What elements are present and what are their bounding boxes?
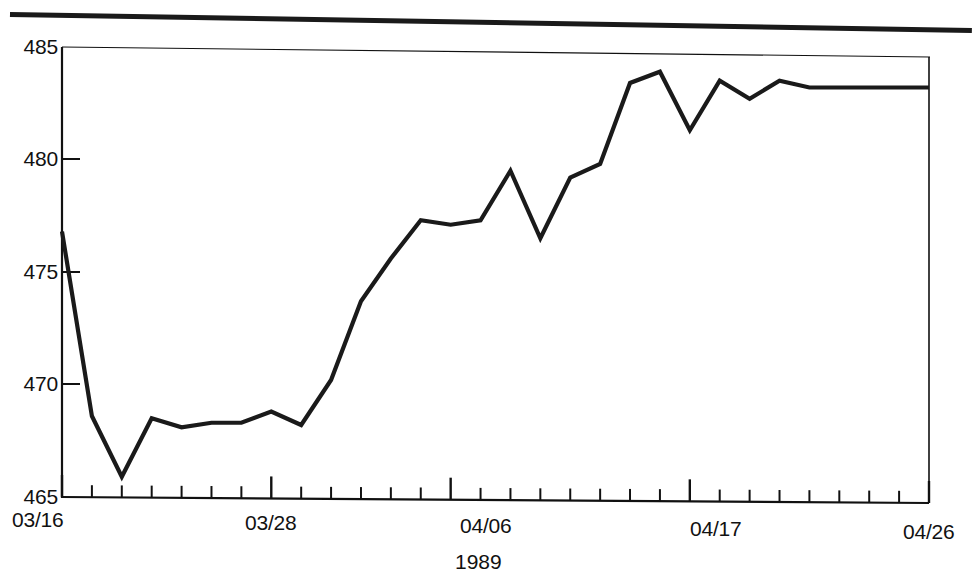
x-axis-title: 1989 [455,551,502,572]
x-tick-label-0406: 04/06 [460,515,512,536]
x-tick-label-0316: 03/16 [12,509,64,530]
plot-frame [62,47,930,503]
chart-page: 485 480 475 470 465 03/16 03/28 04/06 04… [0,0,973,585]
y-tick-label-465: 465 [2,486,58,507]
series-line-index [62,72,929,477]
y-tick-label-480: 480 [2,148,58,169]
plot-top-border [62,47,930,57]
x-tick-label-0426: 04/26 [903,521,955,542]
y-tick-label-475: 475 [2,261,58,282]
y-tick-label-485: 485 [2,36,58,57]
x-axis-spine [62,497,929,503]
y-tick-label-470: 470 [2,373,58,394]
plot-svg [0,0,973,585]
x-tick-label-0417: 04/17 [690,518,742,539]
y-axis-ticks [62,159,80,384]
x-tick-label-0328: 03/28 [245,512,297,533]
line-chart-figure: 485 480 475 470 465 03/16 03/28 04/06 04… [0,0,973,585]
